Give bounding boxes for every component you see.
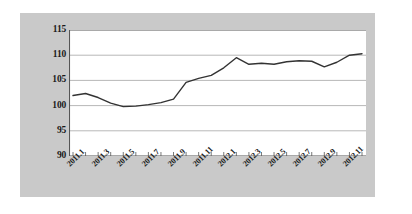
y-tick-label: 90 — [22, 151, 66, 161]
y-tick-label: 115 — [22, 25, 66, 35]
chart-panel: 9095100105110115 2011.12011.32011.52011.… — [20, 13, 375, 197]
y-axis: 9095100105110115 — [20, 30, 66, 156]
y-tick-label: 105 — [22, 75, 66, 85]
line-plot-svg — [69, 30, 366, 156]
plot-area — [69, 30, 366, 156]
gridlines — [69, 30, 366, 156]
y-tick-label: 100 — [22, 101, 66, 111]
y-tick-label: 110 — [22, 50, 66, 60]
x-axis: 2011.12011.32011.52011.72011.92011.11201… — [69, 156, 379, 206]
y-tick-label: 95 — [22, 126, 66, 136]
chart-figure: 9095100105110115 2011.12011.32011.52011.… — [0, 0, 412, 214]
